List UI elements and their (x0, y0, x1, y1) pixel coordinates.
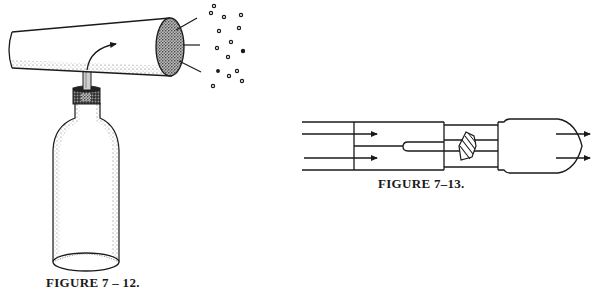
figures-canvas (0, 0, 592, 292)
throttle-valve (459, 132, 476, 160)
bottle (53, 103, 119, 271)
figure-7-13 (302, 119, 590, 173)
fuel-nozzle (354, 142, 444, 151)
outlet-chamber (498, 119, 582, 173)
figure-7-12-caption: FIGURE 7 – 12. (46, 275, 140, 291)
conical-tube (9, 18, 184, 76)
figure-7-13-caption: FIGURE 7–13. (378, 176, 465, 192)
spray-droplets (209, 4, 244, 87)
figure-7-12 (9, 4, 245, 271)
flow-arrows-out (556, 134, 590, 158)
bottle-bottom (53, 253, 119, 271)
tube-outlet (156, 18, 184, 76)
